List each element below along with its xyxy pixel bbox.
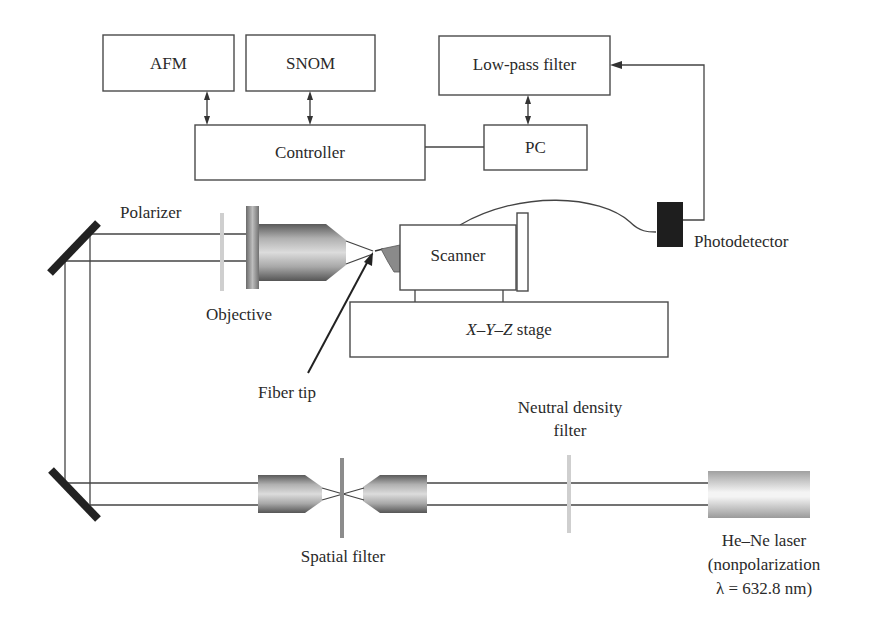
pc-block: PC [484,125,587,170]
objective-icon [246,206,346,289]
scanner-label: Scanner [431,246,486,265]
controller-label: Controller [275,143,345,162]
fiber-tip-label: Fiber tip [258,383,316,402]
photodetector-label: Photodetector [694,232,789,251]
lowpass-pc-arrow-icon [525,95,531,125]
polarizer-icon [220,213,224,291]
snom-label: SNOM [286,54,335,73]
afm-label: AFM [150,54,187,73]
photodetector-signal-arrow-icon [610,61,704,220]
afm-controller-arrow-icon [204,91,210,125]
photodetector-icon [657,202,683,247]
laser-label-line2: (nonpolarization [708,555,821,574]
controller-block: Controller [195,125,425,180]
spatial-filter-label: Spatial filter [301,547,386,566]
snom-setup-diagram: AFM SNOM Low-pass filter Controller PC [0,0,878,629]
lowpass-filter-block: Low-pass filter [439,36,610,95]
bottom-mirror-icon [51,470,98,519]
fiber-tip-icon [375,245,400,272]
polarizer-label: Polarizer [120,203,182,222]
afm-block: AFM [103,35,234,91]
lowpass-filter-label: Low-pass filter [473,55,577,74]
laser-label-line1: He–Ne laser [722,531,807,550]
neutral-density-filter-icon [567,455,571,533]
nd-filter-label-line2: filter [553,421,586,440]
objective-label: Objective [206,305,272,324]
he-ne-laser-icon [708,471,810,518]
pc-label: PC [525,138,546,157]
snom-block: SNOM [246,35,375,91]
scanner-block: Scanner [400,213,528,302]
snom-controller-arrow-icon [307,91,313,125]
spatial-filter-icon [258,458,427,538]
xyz-stage-block: X–Y–Z stage [350,302,668,357]
xyz-stage-label: X–Y–Z stage [465,320,552,339]
laser-label-line3: λ = 632.8 nm) [716,579,812,598]
top-mirror-icon [50,223,98,273]
nd-filter-label-line1: Neutral density [518,398,623,417]
